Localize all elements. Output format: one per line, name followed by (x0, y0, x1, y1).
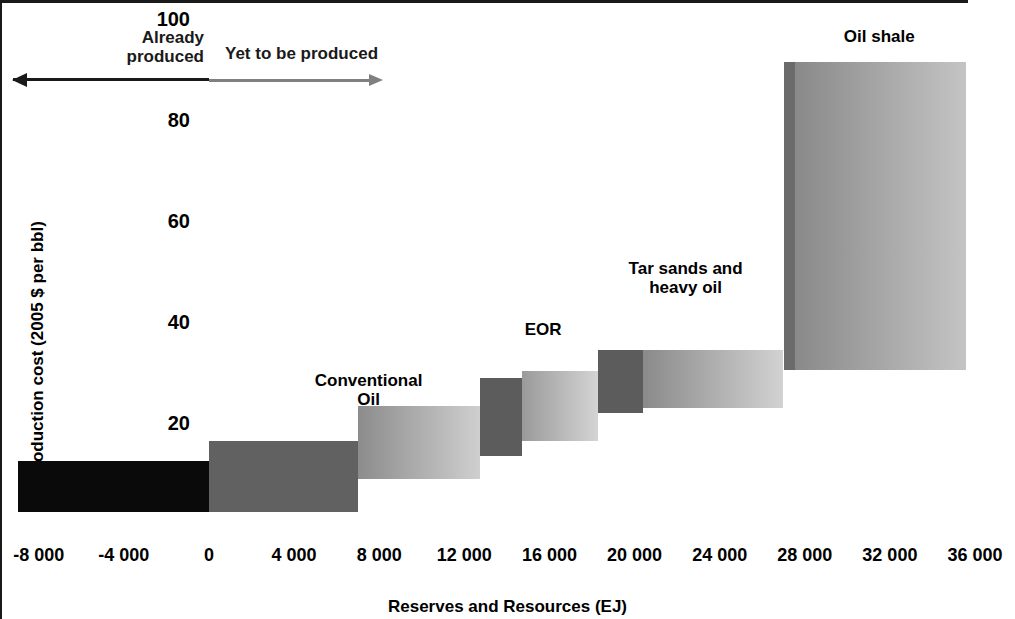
yet-to-be-produced-label: Yet to be produced (225, 45, 525, 64)
series-label-conventional-oil: Conventional Oil (259, 371, 479, 409)
yet-to-be-produced-arrow-line (209, 79, 371, 82)
series-label-tar-sands-and-heavy-oil: Tar sands and heavy oil (576, 259, 796, 297)
arrow-left-icon (12, 73, 27, 87)
series-label-oil-shale: Oil shale (769, 27, 989, 46)
series-label-eor: EOR (433, 320, 653, 339)
already-produced-label: Already produced (0, 29, 204, 66)
already-produced-arrow-line (13, 78, 209, 81)
annotation-layer: Conventional OilEORTar sands and heavy o… (0, 0, 1015, 619)
chart-canvas: Production cost (2005 $ per bbl) Reserve… (0, 0, 1015, 619)
arrow-right-icon (369, 74, 383, 86)
